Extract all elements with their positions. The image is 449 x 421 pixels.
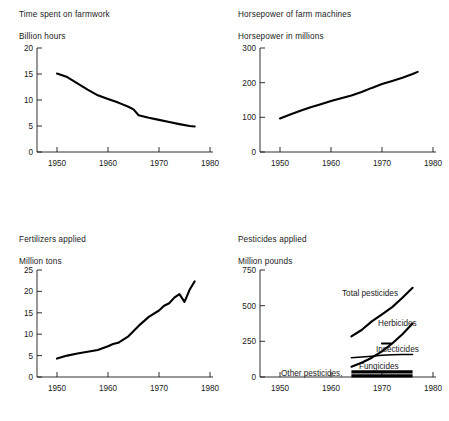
x-tick-label: 1950 [48, 159, 67, 168]
chart-farmwork: 20 15 10 5 0 1950 1960 1970 1980 [0, 0, 224, 210]
series-label-fungicides: Fungicides [359, 362, 399, 371]
y-tick-label: 10 [24, 96, 34, 105]
y-tick-label: 5 [28, 122, 33, 131]
y-tick-label: 100 [242, 113, 256, 122]
x-tick-label: 1980 [424, 159, 443, 168]
y-tick-label: 10 [24, 330, 34, 339]
series-label-total-pesticides: Total pesticides [342, 289, 398, 298]
chart-pesticides: 750 500 250 0 1950 1960 1970 1980 Total … [219, 225, 443, 421]
y-tick-label: 250 [242, 337, 256, 346]
y-tick-label: 15 [24, 309, 34, 318]
data-series-line [57, 281, 195, 358]
y-tick-label: 0 [251, 373, 256, 382]
y-tick-label: 0 [28, 373, 33, 382]
data-series-line [57, 74, 195, 127]
series-label-herbicides: Herbicides [378, 319, 417, 328]
x-tick-label: 1950 [271, 384, 290, 393]
x-tick-label: 1970 [150, 384, 169, 393]
x-tick-label: 1980 [201, 159, 220, 168]
y-tick-label: 20 [24, 287, 34, 296]
data-series-insecticides [351, 355, 412, 358]
y-tick-label: 20 [24, 44, 34, 53]
panel-pesticides-applied: Pesticides applied Million pounds 750 50… [219, 225, 443, 421]
x-tick-label: 1960 [322, 159, 341, 168]
panel-time-spent-on-farmwork: Time spent on farmwork Billion hours 20 … [0, 0, 224, 210]
y-tick-label: 200 [242, 79, 256, 88]
x-tick-label: 1960 [99, 384, 118, 393]
y-tick-label: 500 [242, 302, 256, 311]
y-tick-label: 5 [28, 352, 33, 361]
x-tick-label: 1980 [201, 384, 220, 393]
y-tick-label: 0 [28, 148, 33, 157]
chart-fertilizer: 25 20 15 10 5 0 1950 1960 1970 1980 [0, 225, 224, 421]
y-tick-label: 25 [24, 266, 34, 275]
x-tick-label: 1970 [150, 159, 169, 168]
panel-fertilizers-applied: Fertilizers applied Million tons 25 20 1… [0, 225, 224, 421]
series-label-other-pesticides: Other pesticides, [281, 369, 342, 378]
x-tick-label: 1970 [373, 384, 392, 393]
y-tick-label: 0 [251, 148, 256, 157]
panel-horsepower-of-farm-machines: Horsepower of farm machines Horsepower i… [219, 0, 443, 210]
x-tick-label: 1980 [424, 384, 443, 393]
y-tick-label: 300 [242, 44, 256, 53]
x-tick-label: 1970 [373, 159, 392, 168]
x-tick-label: 1950 [271, 159, 290, 168]
chart-horsepower: 300 200 100 0 1950 1960 1970 1980 [219, 0, 443, 210]
x-tick-label: 1960 [322, 384, 341, 393]
data-series-line [280, 72, 418, 119]
series-label-insecticides: Insecticides [376, 345, 419, 354]
x-tick-label: 1950 [48, 384, 67, 393]
y-tick-label: 15 [24, 70, 34, 79]
y-tick-label: 750 [242, 266, 256, 275]
x-tick-label: 1960 [99, 159, 118, 168]
